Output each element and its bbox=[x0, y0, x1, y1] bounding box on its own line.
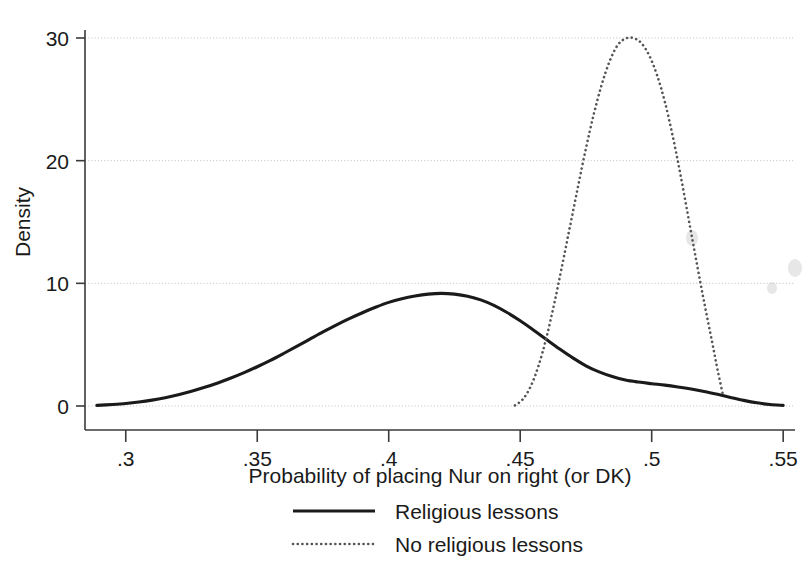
y-tick-label-30: 30 bbox=[46, 27, 69, 50]
legend-label-no-religious-lessons: No religious lessons bbox=[395, 533, 583, 556]
x-tick-label-.3: .3 bbox=[117, 447, 135, 470]
x-axis-title: Probability of placing Nur on right (or … bbox=[249, 464, 632, 487]
y-tick-label-10: 10 bbox=[46, 272, 69, 295]
density-plot-figure: 0102030 .3.35.4.45.5.55 Density Probabil… bbox=[0, 0, 810, 568]
y-axis-title: Density bbox=[11, 186, 34, 257]
legend-label-religious-lessons: Religious lessons bbox=[395, 500, 558, 523]
x-tick-label-.5: .5 bbox=[643, 447, 661, 470]
y-tick-label-20: 20 bbox=[46, 150, 69, 173]
x-tick-label-.55: .55 bbox=[769, 447, 798, 470]
y-tick-label-0: 0 bbox=[57, 395, 69, 418]
